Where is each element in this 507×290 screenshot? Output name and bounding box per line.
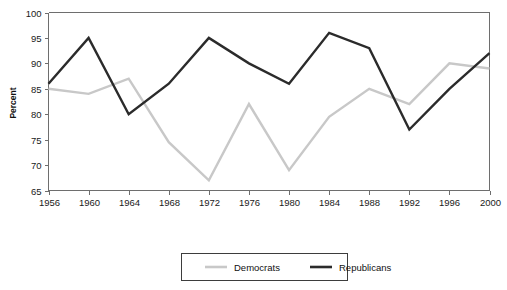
- y-tick-label: 100: [26, 8, 42, 19]
- series-line-republicans: [49, 33, 490, 130]
- chart-container: Percent 65707580859095100 19561960196419…: [0, 0, 507, 290]
- y-tick-label: 70: [31, 160, 42, 171]
- series-line-democrats: [49, 63, 490, 180]
- legend-label-republicans: Republicans: [339, 262, 392, 273]
- x-tick-label: 1968: [159, 197, 180, 208]
- x-tick-label: 1956: [39, 197, 60, 208]
- y-tick-label: 65: [31, 186, 42, 197]
- y-tick-label: 75: [31, 135, 42, 146]
- legend-label-democrats: Democrats: [234, 262, 280, 273]
- x-tick-label: 1996: [439, 197, 460, 208]
- x-tick-label: 1984: [319, 197, 340, 208]
- x-tick-label: 1964: [119, 197, 140, 208]
- x-tick-label: 1988: [359, 197, 380, 208]
- x-tick-label: 2000: [480, 197, 501, 208]
- x-tick-label: 1980: [279, 197, 300, 208]
- y-axis-title: Percent: [8, 87, 18, 118]
- y-tick-label: 90: [31, 58, 42, 69]
- x-tick-label: 1992: [399, 197, 420, 208]
- y-tick-label: 80: [31, 109, 42, 120]
- y-tick-label: 95: [31, 33, 42, 44]
- line-chart: Percent 65707580859095100 19561960196419…: [0, 0, 507, 290]
- x-tick-label: 1972: [199, 197, 220, 208]
- x-tick-label: 1976: [239, 197, 260, 208]
- y-axis-ticks: 65707580859095100: [26, 8, 49, 197]
- y-tick-label: 85: [31, 84, 42, 95]
- series-group: [49, 33, 490, 180]
- x-axis-ticks: 1956196019641968197219761980198419881992…: [39, 191, 501, 209]
- x-tick-label: 1960: [79, 197, 100, 208]
